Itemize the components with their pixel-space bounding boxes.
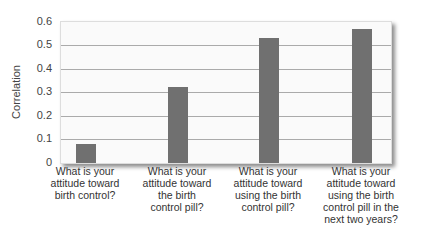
bar-birth-control-pill xyxy=(168,87,188,163)
y-axis-label: Correlation xyxy=(10,62,22,122)
gridline-0.5 xyxy=(61,45,391,46)
bar-using-pill-two-years xyxy=(352,29,372,163)
plot-area xyxy=(60,21,392,164)
y-tick-0.5: 0.5 xyxy=(28,38,52,50)
y-tick-0.4: 0.4 xyxy=(28,62,52,74)
y-tick-0.2: 0.2 xyxy=(28,109,52,121)
gridline-0.1 xyxy=(61,139,391,140)
y-tick-0.1: 0.1 xyxy=(28,132,52,144)
gridline-0.4 xyxy=(61,69,391,70)
bar-using-pill xyxy=(259,38,279,163)
x-label-birth-control: What is your attitude toward birth contr… xyxy=(35,165,135,201)
gridline-0.2 xyxy=(61,116,391,117)
bar-birth-control xyxy=(76,144,96,163)
x-label-using-pill: What is your attitude toward using the b… xyxy=(218,165,318,213)
gridline-0.3 xyxy=(61,92,391,93)
x-label-birth-control-pill: What is your attitude toward the birth c… xyxy=(127,165,227,213)
y-tick-0.6: 0.6 xyxy=(28,15,52,27)
y-tick-0.3: 0.3 xyxy=(28,85,52,97)
x-label-using-pill-two-years: What is your attitude toward using the b… xyxy=(311,165,411,225)
